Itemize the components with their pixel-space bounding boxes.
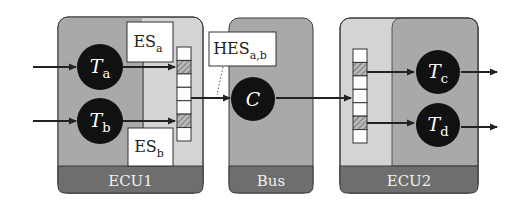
hes-sub: a,b bbox=[250, 49, 267, 62]
es-b-sub: b bbox=[157, 147, 164, 160]
queue-cell-empty bbox=[353, 76, 367, 89]
task-td-sub: d bbox=[440, 124, 448, 139]
queue-cell-empty bbox=[177, 101, 191, 114]
es-a-main: ES bbox=[133, 32, 156, 51]
task-tb: Tb bbox=[77, 98, 123, 144]
queue-cell-filled bbox=[177, 114, 191, 127]
es-a-label: ESa bbox=[127, 22, 173, 62]
queue-cell-empty bbox=[177, 128, 191, 141]
event-model-diagram: ECU1 Bus ECU2 Ta bbox=[0, 0, 524, 206]
task-ta-sub: a bbox=[102, 66, 110, 81]
hes-main: HES bbox=[213, 39, 250, 58]
queue-cell-empty bbox=[353, 103, 367, 116]
es-b-label: ESb bbox=[128, 128, 173, 166]
hes-leader-line bbox=[217, 67, 223, 95]
queue-cell-filled bbox=[353, 62, 367, 75]
ecu2-input-queue bbox=[353, 49, 367, 143]
queue-cell-empty bbox=[353, 49, 367, 62]
task-c: C bbox=[231, 77, 275, 121]
task-tb-sub: b bbox=[102, 120, 110, 135]
ecu2-label: ECU2 bbox=[387, 172, 432, 190]
task-td: Td bbox=[416, 103, 460, 147]
queue-cell-empty bbox=[177, 74, 191, 87]
queue-cell-empty bbox=[353, 130, 367, 143]
es-b-main: ES bbox=[134, 137, 157, 156]
task-tc-sub: c bbox=[441, 71, 448, 86]
queue-cell-empty bbox=[177, 47, 191, 60]
es-a-sub: a bbox=[156, 42, 163, 55]
hes-label: HESa,b bbox=[209, 32, 276, 66]
queue-cell-filled bbox=[177, 60, 191, 73]
task-tc: Tc bbox=[416, 50, 460, 94]
task-ta: Ta bbox=[77, 44, 123, 90]
ecu1-output-queue bbox=[177, 47, 191, 141]
bus-label: Bus bbox=[257, 172, 285, 190]
queue-cell-filled bbox=[353, 116, 367, 129]
queue-cell-empty bbox=[353, 89, 367, 102]
ecu1-label: ECU1 bbox=[108, 172, 153, 190]
queue-cell-empty bbox=[177, 87, 191, 100]
task-c-main: C bbox=[246, 88, 261, 110]
